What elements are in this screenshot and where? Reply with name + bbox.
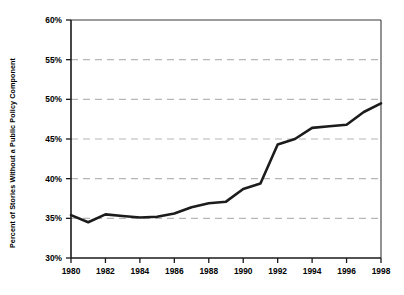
x-tick-label-1982: 1982 — [96, 266, 115, 276]
y-tick-label-35: 35% — [45, 213, 62, 223]
y-tick-label-40: 40% — [45, 174, 62, 184]
gridlines-group — [71, 60, 381, 219]
y-tick-label-55: 55% — [45, 55, 62, 65]
x-tick-label-1996: 1996 — [337, 266, 356, 276]
y-tick-label-45: 45% — [45, 134, 62, 144]
chart-canvas: 60%55%50%45%40%35%30% 198019821984198619… — [0, 0, 404, 295]
y-tick-label-50: 50% — [45, 94, 62, 104]
data-series-group — [71, 103, 381, 222]
x-tick-labels-group: 1980198219841986198819901992199419961998 — [62, 266, 391, 276]
chart-screenshot: Percent of Stories Without a Public Poli… — [0, 0, 404, 295]
line-chart-figure: 60%55%50%45%40%35%30% 198019821984198619… — [0, 0, 404, 295]
x-tick-label-1992: 1992 — [268, 266, 287, 276]
x-tick-label-1986: 1986 — [165, 266, 184, 276]
x-tick-label-1988: 1988 — [199, 266, 218, 276]
y-tick-label-30: 30% — [45, 253, 62, 263]
x-tick-label-1980: 1980 — [62, 266, 81, 276]
series-line-0 — [71, 103, 381, 222]
x-tick-label-1990: 1990 — [234, 266, 253, 276]
x-tick-label-1984: 1984 — [131, 266, 150, 276]
y-tick-label-60: 60% — [45, 15, 62, 25]
x-tick-label-1994: 1994 — [303, 266, 322, 276]
x-tick-label-1998: 1998 — [372, 266, 391, 276]
y-tick-labels-group: 60%55%50%45%40%35%30% — [45, 15, 62, 263]
plot-frame — [71, 20, 381, 258]
